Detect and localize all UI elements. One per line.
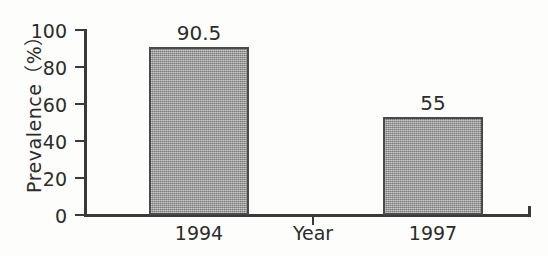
y-axis-line (84, 29, 87, 217)
x-tick-label-1994: 1994 (149, 224, 249, 243)
bar-chart: Prevalence（%） 100 80 60 40 20 0 90.5 55 … (0, 0, 548, 256)
bar-value-1997: 55 (383, 93, 483, 113)
y-tick-label-60: 60 (7, 96, 67, 115)
bar-value-1994: 90.5 (149, 23, 249, 43)
bar-1997 (383, 117, 483, 215)
y-tick-label-100: 100 (7, 22, 67, 41)
y-tick-label-40: 40 (7, 133, 67, 152)
y-tick-label-20: 20 (7, 170, 67, 189)
y-tick-label-80: 80 (7, 59, 67, 78)
bar-1994 (149, 47, 249, 215)
y-tick-label-0: 0 (7, 207, 67, 226)
x-tick-label-1997: 1997 (383, 224, 483, 243)
x-axis-title: Year (263, 224, 363, 243)
x-axis-endcap (528, 206, 531, 215)
